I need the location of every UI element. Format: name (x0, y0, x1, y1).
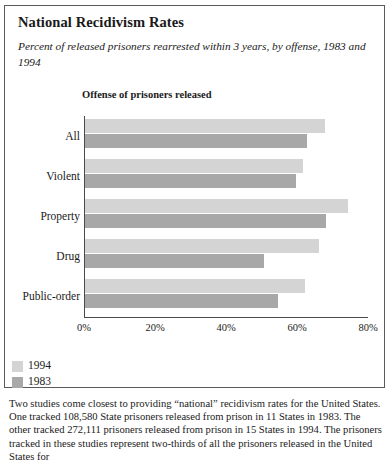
x-tick-label: 20% (145, 322, 164, 333)
legend-swatch-1983 (12, 377, 23, 388)
category-label: Violent (46, 170, 80, 182)
chart-legend: 1994 1983 (12, 359, 51, 391)
bar-chart-plot-area: AllViolentPropertyDrugPublic-order (84, 116, 368, 316)
chart-subtitle: Percent of released prisoners rearrested… (18, 39, 368, 70)
bar-1994-property (85, 199, 348, 213)
x-tick-label: 0% (77, 322, 91, 333)
plot-axis-heading: Offense of prisoners released (82, 89, 212, 100)
bar-1994-drug (85, 239, 319, 253)
legend-swatch-1994 (12, 361, 23, 372)
category-label: Property (40, 210, 80, 222)
bar-1994-violent (85, 159, 303, 173)
bar-1983-drug (85, 254, 264, 268)
figure-frame: National Recidivism Rates Percent of rel… (4, 5, 385, 388)
bar-group: Violent (84, 156, 368, 196)
x-tick-label: 40% (216, 322, 235, 333)
bar-1983-all (85, 134, 307, 148)
page-title: National Recidivism Rates (18, 14, 184, 31)
bar-1994-public-order (85, 279, 305, 293)
x-axis-line (84, 317, 368, 318)
legend-item-1983: 1983 (12, 375, 51, 389)
legend-label-1994: 1994 (28, 360, 51, 372)
x-tick-label: 60% (287, 322, 306, 333)
category-label: Public-order (23, 290, 80, 302)
bar-group: Property (84, 196, 368, 236)
bar-group: Public-order (84, 276, 368, 316)
bar-1983-public-order (85, 294, 278, 308)
category-label: All (65, 130, 80, 142)
footnote-text: Two studies come closest to providing “n… (9, 397, 384, 463)
bar-group: Drug (84, 236, 368, 276)
bar-1994-all (85, 119, 325, 133)
bar-1983-property (85, 214, 326, 228)
category-label: Drug (56, 250, 80, 262)
legend-label-1983: 1983 (28, 376, 51, 388)
bar-group: All (84, 116, 368, 156)
x-tick-label: 80% (358, 322, 377, 333)
bar-1983-violent (85, 174, 296, 188)
legend-item-1994: 1994 (12, 359, 51, 373)
